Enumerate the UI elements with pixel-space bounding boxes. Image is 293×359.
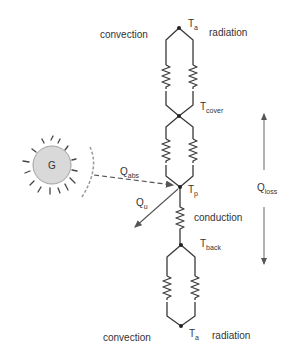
resistor-top-convection [162,65,170,89]
node-back [179,243,183,247]
node-plate [178,185,182,189]
cover-arc [82,147,94,197]
top-resistor-pair [162,28,197,116]
cover-resistor-pair [162,116,197,187]
resistor-top-radiation [189,65,197,89]
label-tcover: Tcover [200,101,224,114]
label-tback: Tback [200,238,221,251]
label-radiation-bottom: radiation [212,330,250,341]
q-u-arrow [135,189,178,227]
label-ta-bottom: Ta [189,328,199,341]
label-qabs: Qabs [120,166,140,179]
label-convection-bottom: convection [103,332,151,343]
label-tp: Tp [188,184,198,198]
label-qloss: Qloss [257,182,278,195]
node-ambient-top [177,26,181,30]
bottom-resistor-pair [163,245,199,326]
label-qu: Qu [136,197,148,210]
thermal-network-diagram: Ta Tcover Tp Tback Ta convection radiati… [0,0,293,359]
node-cover [177,114,181,118]
label-convection-top: convection [100,29,148,40]
label-radiation-top: radiation [209,27,247,38]
node-ambient-bottom [179,324,183,328]
label-ta-top: Ta [188,18,198,31]
label-conduction: conduction [194,212,242,223]
conduction-resistor [176,187,184,245]
label-g: G [48,160,56,171]
